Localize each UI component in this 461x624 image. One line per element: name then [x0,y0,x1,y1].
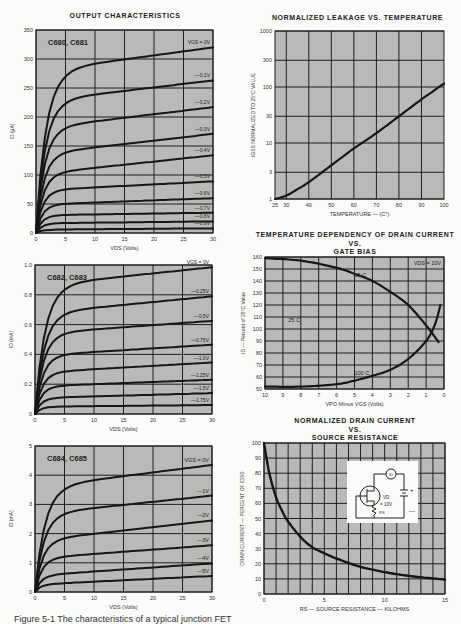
svg-text:DRAIN CURRENT — PERCENT OF IDS: DRAIN CURRENT — PERCENT OF IDSS [239,471,245,566]
svg-text:90: 90 [255,455,261,461]
svg-text:5: 5 [323,597,326,603]
svg-text:—: — [409,508,415,514]
svg-text:0: 0 [258,591,261,597]
svg-text:30: 30 [255,546,261,552]
circuit-inset-icon: IDVD= 10VRS+— [347,461,418,523]
svg-text:100: 100 [252,440,261,446]
svg-text:20: 20 [255,561,261,567]
svg-text:80: 80 [255,470,261,476]
svg-text:RS — SOURCE RESISTANCE — KILOH: RS — SOURCE RESISTANCE — KILOHMS [300,606,410,612]
svg-text:0: 0 [262,597,265,603]
svg-text:10: 10 [255,576,261,582]
svg-text:+: + [410,487,414,493]
svg-text:60: 60 [255,500,261,506]
svg-text:VD: VD [383,495,390,500]
svg-text:40: 40 [255,531,261,537]
svg-text:ID: ID [389,472,393,477]
svg-text:15: 15 [442,597,448,603]
svg-text:70: 70 [255,485,261,491]
figure-caption: Figure 5-1 The characteristics of a typi… [14,614,231,624]
svg-text:= 10V: = 10V [380,502,392,507]
svg-text:RS: RS [379,510,385,515]
svg-text:10: 10 [382,597,388,603]
svg-text:50: 50 [255,516,261,522]
